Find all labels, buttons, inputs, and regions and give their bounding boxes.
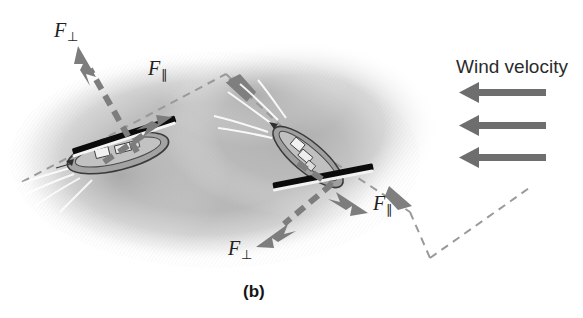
force-symbol: F bbox=[228, 237, 240, 259]
wind-arrow-2 bbox=[459, 115, 546, 136]
force-subscript: ⊥ bbox=[67, 29, 78, 44]
force-parallel-label-right: F∥ bbox=[373, 193, 392, 216]
force-subscript: ⊥ bbox=[241, 247, 252, 262]
force-symbol: F bbox=[373, 192, 385, 214]
force-perpendicular-label-right: F⊥ bbox=[228, 238, 251, 261]
force-subscript: ∥ bbox=[386, 202, 393, 217]
force-subscript: ∥ bbox=[161, 67, 168, 82]
sailboat-force-diagram: Wind velocity F⊥ F∥ F⊥ F∥ (b) bbox=[0, 0, 583, 318]
wind-arrow-1 bbox=[459, 82, 546, 103]
wind-arrow-3 bbox=[459, 147, 546, 168]
force-perpendicular-label-left: F⊥ bbox=[54, 20, 77, 43]
force-symbol: F bbox=[148, 57, 160, 79]
force-symbol: F bbox=[54, 19, 66, 41]
wind-velocity-label: Wind velocity bbox=[456, 57, 568, 76]
force-parallel-label-left: F∥ bbox=[148, 58, 167, 81]
wind-arrows-layer bbox=[0, 0, 583, 318]
panel-label: (b) bbox=[243, 283, 265, 300]
